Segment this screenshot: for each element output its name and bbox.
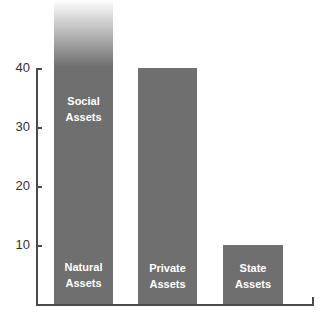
y-tick-40: [36, 68, 42, 70]
bar-state-assets: State Assets: [223, 245, 283, 304]
x-axis-end-tick: [312, 297, 314, 306]
label-state: State: [223, 260, 283, 276]
bar-label-natural-assets: Natural Assets: [54, 259, 113, 291]
label-natural: Natural: [54, 259, 113, 275]
bar-label-private-assets: Private Assets: [138, 260, 197, 292]
label-assets: Assets: [54, 109, 113, 125]
bar-label-state-assets: State Assets: [223, 260, 283, 292]
bar-chart: 40 30 20 10 Social Assets Natural Assets…: [0, 0, 334, 322]
x-axis: [36, 304, 314, 306]
label-assets: Assets: [138, 276, 197, 292]
y-tick-10: [36, 245, 42, 247]
label-private: Private: [138, 260, 197, 276]
label-assets: Assets: [54, 275, 113, 291]
bar-private-assets: Private Assets: [138, 68, 197, 304]
y-tick-label-30: 30: [0, 120, 30, 134]
y-tick-label-20: 20: [0, 179, 30, 193]
bar-natural-social-assets: Social Assets Natural Assets: [54, 0, 113, 304]
label-assets: Assets: [223, 276, 283, 292]
bar-label-social-assets: Social Assets: [54, 93, 113, 125]
y-tick-30: [36, 127, 42, 129]
y-tick-20: [36, 186, 42, 188]
label-social: Social: [54, 93, 113, 109]
y-tick-label-40: 40: [0, 61, 30, 75]
y-tick-label-10: 10: [0, 238, 30, 252]
